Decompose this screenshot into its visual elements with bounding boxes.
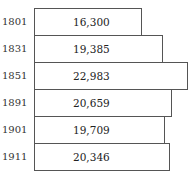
value-label: 19,385 [35, 36, 162, 62]
year-label: 1801 [2, 8, 32, 35]
bar: 20,659 [34, 89, 172, 117]
value-label: 19,709 [35, 117, 164, 143]
bar: 16,300 [34, 8, 142, 36]
year-label: 1891 [2, 89, 32, 116]
bar: 20,346 [34, 143, 170, 171]
bar: 22,983 [34, 62, 188, 90]
value-label: 22,983 [35, 63, 187, 89]
bar-row-1891: 189120,659 [0, 89, 195, 116]
bar-row-1801: 180116,300 [0, 8, 195, 35]
value-label: 20,346 [35, 144, 169, 170]
bar: 19,709 [34, 116, 165, 144]
value-label: 16,300 [35, 9, 141, 35]
value-label: 20,659 [35, 90, 171, 116]
year-label: 1831 [2, 35, 32, 62]
year-label: 1911 [2, 143, 32, 170]
bar-row-1901: 190119,709 [0, 116, 195, 143]
year-label: 1901 [2, 116, 32, 143]
bar-row-1831: 183119,385 [0, 35, 195, 62]
bar-row-1851: 185122,983 [0, 62, 195, 89]
bar-row-1911: 191120,346 [0, 143, 195, 170]
bar: 19,385 [34, 35, 163, 63]
year-label: 1851 [2, 62, 32, 89]
